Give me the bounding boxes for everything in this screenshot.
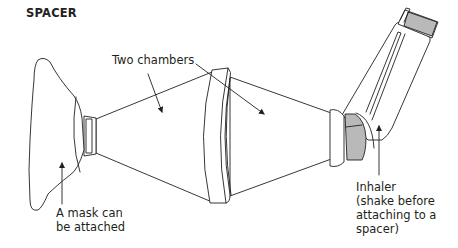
inhaler-label-line-2: (shake before [356, 194, 436, 208]
mask-label-line-1: A mask can [56, 206, 125, 220]
two-chambers-label: Two chambers [112, 53, 194, 67]
inhaler-label-line-3: attaching to a [356, 208, 436, 222]
mask-connector [84, 116, 96, 156]
mask-label-line-2: be attached [56, 220, 125, 234]
inhaler-label: Inhaler (shake before attaching to a spa… [356, 180, 436, 236]
second-chamber [230, 77, 334, 196]
mask [29, 58, 84, 210]
inhaler-label-line-1: Inhaler [356, 180, 436, 194]
inhaler-label-line-4: spacer) [356, 222, 436, 236]
mask-label: A mask can be attached [56, 206, 125, 234]
